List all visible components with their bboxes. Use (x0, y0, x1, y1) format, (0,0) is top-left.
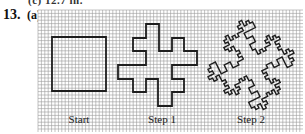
start-label: Start (69, 113, 90, 125)
step-2-label: Step 2 (237, 113, 265, 125)
step-1-label: Step 1 (148, 113, 176, 125)
fractal-figure: Start Step 1 Step 2 (0, 0, 305, 134)
